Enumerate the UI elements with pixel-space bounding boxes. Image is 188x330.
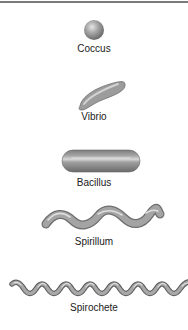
vibrio-label: Vibrio [0, 111, 188, 123]
bacillus-shape [62, 150, 140, 172]
coccus-shape [84, 20, 104, 40]
bacillus-label: Bacillus [0, 177, 188, 189]
spirillum-shape [46, 208, 160, 225]
coccus-label: Coccus [0, 43, 188, 55]
spirillum-label: Spirillum [0, 236, 188, 248]
spirochete-label: Spirochete [0, 302, 188, 314]
vibrio-shape [79, 82, 125, 110]
spirochete-shape [12, 282, 188, 294]
